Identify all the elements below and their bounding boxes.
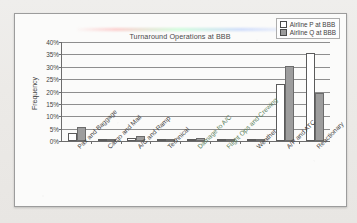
bar-airline-q[interactable] [315,93,324,141]
y-tick-label: 35% [46,51,59,58]
y-tick-label: 25% [46,76,59,83]
x-tick-mark [240,141,241,144]
legend-swatch-airline-p [280,21,287,28]
bar-airline-p[interactable] [187,139,196,141]
bar-airline-p[interactable] [98,139,107,141]
legend-label-airline-p: Airline P at BBB [290,21,335,28]
x-tick-mark [210,141,211,144]
x-tick-mark [150,141,151,144]
bar-group [62,42,92,141]
legend-item-airline-q[interactable]: Airline Q at BBB [280,29,336,36]
x-axis-labels: Pax and BaggageCargo and MailA/C and Ram… [61,145,329,207]
x-tick-mark [269,141,270,144]
chart-frame: Turnaround Operations at BBB Airline P a… [14,13,347,207]
chart-legend: Airline P at BBB Airline Q at BBB [276,18,340,39]
bar-airline-p[interactable] [276,84,285,141]
bar-airline-p[interactable] [127,138,136,141]
chart-title: Turnaround Operations at BBB [85,32,275,41]
scan-color-fringe [75,28,305,31]
bar-airline-p[interactable] [247,139,256,141]
bar-airline-p[interactable] [157,139,166,141]
y-tick-label: 10% [46,113,59,120]
y-tick-label: 20% [46,88,59,95]
bar-airline-p[interactable] [217,139,226,141]
bar-airline-p[interactable] [68,133,77,141]
y-tick-mark [59,141,62,142]
legend-item-airline-p[interactable]: Airline P at BBB [280,21,336,28]
x-tick-mark [121,141,122,144]
x-tick-mark [299,141,300,144]
y-tick-label: 30% [46,63,59,70]
y-tick-label: 5% [50,125,59,132]
y-tick-label: 0% [50,138,59,145]
y-tick-label: 40% [46,39,59,46]
y-axis-title: Frequency [31,64,38,124]
x-tick-mark [180,141,181,144]
bar-group [270,42,300,141]
x-tick-mark [91,141,92,144]
bar-airline-q[interactable] [285,66,294,141]
legend-label-airline-q: Airline Q at BBB [290,29,336,36]
legend-swatch-airline-q [280,29,287,36]
screenshot-canvas: Turnaround Operations at BBB Airline P a… [0,0,357,223]
y-tick-label: 15% [46,100,59,107]
